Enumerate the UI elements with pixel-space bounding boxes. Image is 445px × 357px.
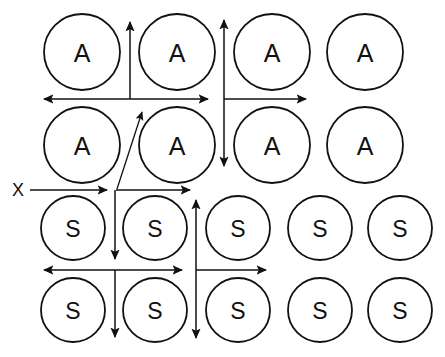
- grain-label-row-a-1-1: A: [169, 39, 186, 67]
- axis-label-layer: X: [12, 180, 24, 200]
- diffusion-grain-diagram: AAAAAAAASSSSSSSSSS X: [0, 0, 445, 357]
- diagram-canvas: AAAAAAAASSSSSSSSSS X: [0, 0, 445, 357]
- grain-label-row-s-2-4: S: [392, 298, 407, 324]
- grain-label-row-a-1-0: A: [74, 39, 91, 67]
- grain-label-row-s-1-1: S: [147, 216, 162, 242]
- grain-circle-layer: AAAAAAAASSSSSSSSSS: [41, 14, 432, 342]
- grain-label-row-a-2-3: A: [357, 132, 374, 160]
- grain-label-row-s-2-3: S: [312, 298, 327, 324]
- grain-label-row-a-2-2: A: [264, 132, 281, 160]
- grain-label-row-s-2-1: S: [147, 298, 162, 324]
- grain-row-row-s-2: SSSSS: [41, 278, 432, 342]
- grain-label-row-a-1-3: A: [357, 39, 374, 67]
- grain-label-row-s-1-4: S: [392, 216, 407, 242]
- grain-label-row-s-1-0: S: [65, 216, 80, 242]
- grain-label-row-s-1-2: S: [230, 216, 245, 242]
- grain-label-row-a-2-0: A: [74, 132, 91, 160]
- grain-label-row-s-2-0: S: [65, 298, 80, 324]
- grain-row-row-s-1: SSSSS: [41, 196, 432, 260]
- grain-label-row-s-1-3: S: [312, 216, 327, 242]
- flux-arrow-diagonal-grain-boundary: [117, 112, 142, 189]
- grain-label-row-a-1-2: A: [264, 39, 281, 67]
- grain-label-row-a-2-1: A: [169, 132, 186, 160]
- grain-label-row-s-2-2: S: [230, 298, 245, 324]
- x-axis-label: X: [12, 180, 24, 200]
